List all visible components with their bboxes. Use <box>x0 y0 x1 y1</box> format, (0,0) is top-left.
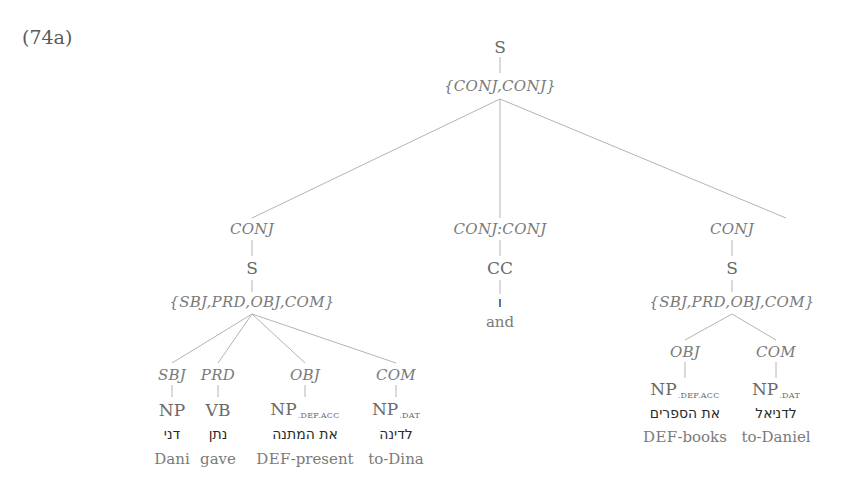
leaf-function-obj: OBJ <box>290 368 320 383</box>
left-conj-category: S <box>246 260 258 277</box>
right-leaf-hebrew-ledaniel: לדניאל <box>755 406 797 420</box>
root-category: S <box>494 39 506 56</box>
leaf-category-np-def-acc: NP.DEF.ACC <box>270 401 339 420</box>
leaf-hebrew-ledina: לדינה <box>379 427 412 441</box>
leaf-category-np: NP <box>159 402 185 419</box>
right-leaf-function-obj: OBJ <box>670 345 700 360</box>
leaf-gloss-to-dina: to-Dina <box>368 452 424 467</box>
right-conj-function: CONJ <box>710 222 754 237</box>
leaf-gloss-dani: Dani <box>154 452 189 467</box>
root-functions: {CONJ,CONJ} <box>444 79 556 94</box>
leaf-function-sbj: SBJ <box>158 368 186 383</box>
gloss-text: -books <box>677 428 727 446</box>
category-text: NP <box>752 379 778 399</box>
gloss-text: -present <box>291 450 354 468</box>
right-leaf-gloss-def-books: DEF-books <box>643 430 727 445</box>
right-conj-functions: {SBJ,PRD,OBJ,COM} <box>649 295 814 310</box>
middle-hebrew-vav: ו <box>498 295 502 309</box>
category-text: VB <box>206 400 231 420</box>
category-text: NP <box>372 399 398 419</box>
leaf-hebrew-et-hamatana: את המתנה <box>272 427 338 441</box>
leaf-gloss-def-present: DEF-present <box>256 452 353 467</box>
left-conj-function: CONJ <box>230 222 274 237</box>
category-subscript: .DEF.ACC <box>678 391 720 400</box>
left-conj-functions: {SBJ,PRD,OBJ,COM} <box>169 295 334 310</box>
middle-gloss-and: and <box>486 315 514 330</box>
leaf-function-com: COM <box>376 368 416 383</box>
right-conj-category: S <box>726 260 738 277</box>
gloss-prefix: DEF <box>643 428 677 446</box>
category-subscript: .DEF.ACC <box>298 411 340 420</box>
leaf-category-np-dat: NP.DAT <box>372 401 420 420</box>
right-leaf-hebrew-et-hasfarim: את הספרים <box>650 406 720 420</box>
category-text: NP <box>650 379 676 399</box>
middle-category-cc: CC <box>487 260 513 277</box>
tree-edges <box>0 0 861 486</box>
category-subscript: .DAT <box>399 411 420 420</box>
category-text: NP <box>159 400 185 420</box>
gloss-prefix: DEF <box>256 450 290 468</box>
example-number: (74a) <box>22 28 72 47</box>
category-text: NP <box>270 399 296 419</box>
category-subscript: .DAT <box>779 391 800 400</box>
right-leaf-category-np-def-acc: NP.DEF.ACC <box>650 381 719 400</box>
leaf-hebrew-dani: דני <box>164 427 180 441</box>
leaf-gloss-gave: gave <box>200 452 236 467</box>
right-leaf-gloss-to-daniel: to-Daniel <box>741 430 810 445</box>
middle-function: CONJ:CONJ <box>454 222 547 237</box>
leaf-category-vb: VB <box>206 402 231 419</box>
syntax-tree-figure: (74a) S {CONJ,CONJ} CONJ S {SBJ,PRD,OBJ,… <box>0 0 861 486</box>
leaf-hebrew-natan: נתן <box>209 427 228 441</box>
right-leaf-function-com: COM <box>756 345 796 360</box>
leaf-function-prd: PRD <box>201 368 235 383</box>
right-leaf-category-np-dat: NP.DAT <box>752 381 800 400</box>
